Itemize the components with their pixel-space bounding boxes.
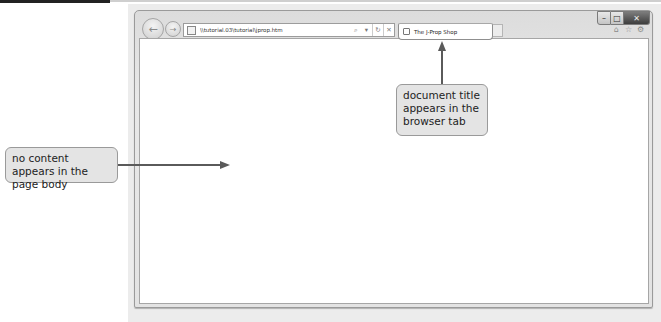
- tab-title: The J-Prop Shop: [414, 29, 457, 35]
- command-icons: ⌂ ☆ ⚙: [612, 25, 645, 34]
- address-bar-tools: ⌕ ▾ ↻ ✕: [350, 24, 394, 36]
- body-callout: no content appears in the page body: [5, 147, 118, 183]
- maximize-icon: □: [613, 14, 621, 23]
- url-text[interactable]: \\tutorial.03\tutorial\jprop.htm: [200, 27, 350, 33]
- body-callout-arrow: [118, 164, 222, 166]
- minimize-button[interactable]: –: [597, 11, 611, 25]
- stop-icon[interactable]: ✕: [383, 24, 394, 36]
- search-icon[interactable]: ⌕: [350, 24, 361, 36]
- refresh-icon[interactable]: ↻: [372, 24, 383, 36]
- home-icon[interactable]: ⌂: [612, 25, 621, 34]
- page-icon: [187, 26, 196, 35]
- arrow-right-icon: [220, 161, 230, 169]
- browser-window: – □ ✕ ← → \\tutorial.03\tutorial\jprop.h…: [134, 10, 653, 308]
- back-arrow-icon: ←: [148, 23, 157, 36]
- forward-button[interactable]: →: [165, 21, 181, 37]
- window-controls: – □ ✕: [597, 11, 650, 25]
- minimize-icon: –: [602, 14, 606, 23]
- top-edge-strip: [0, 0, 110, 3]
- tools-gear-icon[interactable]: ⚙: [636, 25, 645, 34]
- back-button[interactable]: ←: [142, 18, 164, 40]
- title-bar: – □ ✕ ← → \\tutorial.03\tutorial\jprop.h…: [135, 11, 652, 39]
- browser-tab[interactable]: The J-Prop Shop: [398, 23, 493, 40]
- dropdown-icon[interactable]: ▾: [361, 24, 372, 36]
- top-edge-strip-light: [110, 0, 661, 2]
- address-bar[interactable]: \\tutorial.03\tutorial\jprop.htm ⌕ ▾ ↻ ✕: [183, 23, 395, 37]
- tab-page-icon: [403, 28, 410, 35]
- title-callout-arrow: [441, 46, 443, 84]
- close-button[interactable]: ✕: [624, 11, 650, 25]
- favorites-star-icon[interactable]: ☆: [624, 25, 633, 34]
- forward-arrow-icon: →: [170, 25, 177, 34]
- new-tab-button[interactable]: [493, 24, 503, 37]
- title-callout: document title appears in the browser ta…: [396, 84, 488, 136]
- page-body: [139, 38, 649, 304]
- maximize-button[interactable]: □: [611, 11, 624, 25]
- figure: – □ ✕ ← → \\tutorial.03\tutorial\jprop.h…: [0, 0, 661, 322]
- close-icon: ✕: [633, 14, 640, 23]
